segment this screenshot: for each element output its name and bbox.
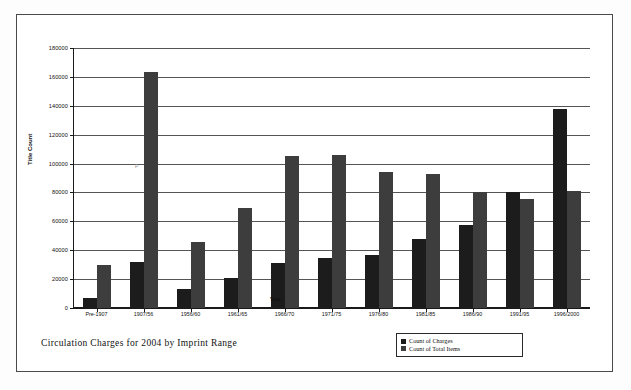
y-axis-tick-label: 40000: [52, 247, 68, 253]
legend-item[interactable]: Count of Charges: [401, 338, 518, 345]
bar-group: [120, 48, 167, 308]
bar-group: [543, 48, 590, 308]
bar-total-items[interactable]: [520, 199, 534, 308]
bar-total-items[interactable]: [332, 155, 346, 308]
scan-artifact-mark: P: [135, 163, 138, 169]
x-axis-tick-label: 1961/65: [214, 311, 261, 317]
bars-layer: [73, 48, 590, 308]
y-axis-tick-label: 160000: [49, 74, 68, 80]
x-axis-tick-label: 1976/80: [355, 311, 402, 317]
bar-charges[interactable]: [506, 192, 520, 308]
x-axis-tick-label: 1991/95: [496, 311, 543, 317]
y-axis-tick-label: 20000: [52, 276, 68, 282]
x-axis-tick-label: Pre-1907: [73, 311, 120, 317]
y-axis-tick-label: 140000: [49, 103, 68, 109]
x-axis-tick-label: 1956/60: [167, 311, 214, 317]
y-axis-tick-label: 60000: [52, 218, 68, 224]
legend-item[interactable]: Count of Total Items: [401, 346, 518, 353]
x-axis-tick-label: 1981/85: [402, 311, 449, 317]
bar-charges[interactable]: [224, 278, 238, 308]
x-axis-tick-label: 1971/75: [308, 311, 355, 317]
legend-swatch-icon: [401, 346, 406, 351]
y-axis-tick-mark: [70, 308, 74, 309]
x-axis-title: Year: [17, 296, 534, 302]
y-axis-title: Title Count: [27, 134, 33, 165]
legend-label: Count of Charges: [409, 338, 453, 345]
bar-total-items[interactable]: [379, 172, 393, 308]
legend-swatch-icon: [401, 339, 406, 344]
bar-group: [355, 48, 402, 308]
bar-group: [449, 48, 496, 308]
y-axis-tick-label: 80000: [52, 189, 68, 195]
x-axis-tick-label: 1996/2000: [543, 311, 590, 317]
bar-group: [167, 48, 214, 308]
bar-charges[interactable]: [553, 109, 567, 308]
bar-total-items[interactable]: [567, 191, 581, 308]
bar-group: [73, 48, 120, 308]
y-axis-tick-label: 100000: [49, 161, 68, 167]
bar-group: [402, 48, 449, 308]
bar-group: [214, 48, 261, 308]
x-axis-tick-label: 1966/70: [261, 311, 308, 317]
bar-group: [496, 48, 543, 308]
x-axis-tick-label: 1907/56: [120, 311, 167, 317]
bar-total-items[interactable]: [285, 156, 299, 308]
bar-total-items[interactable]: [473, 192, 487, 308]
chart-frame: Title Count 0200004000060000800001000001…: [16, 14, 613, 372]
x-axis-tick-labels: Pre-19071907/561956/601961/651966/701971…: [73, 311, 590, 317]
legend-label: Count of Total Items: [409, 346, 460, 353]
y-axis-tick-label: 120000: [49, 132, 68, 138]
y-axis-tick-label: 180000: [49, 45, 68, 51]
bar-group: [308, 48, 355, 308]
y-axis-tick-label: 0: [65, 305, 68, 311]
bar-total-items[interactable]: [426, 174, 440, 308]
chart-canvas: Title Count 0200004000060000800001000001…: [17, 15, 614, 373]
bar-total-items[interactable]: [144, 72, 158, 308]
chart-caption: Circulation Charges for 2004 by Imprint …: [41, 338, 237, 348]
bar-total-items[interactable]: [238, 208, 252, 308]
chart-legend: Count of ChargesCount of Total Items: [396, 333, 523, 357]
bar-group: [261, 48, 308, 308]
x-axis-tick-label: 1986/90: [449, 311, 496, 317]
